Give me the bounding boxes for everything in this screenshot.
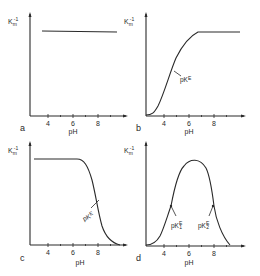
pk2-pointer (209, 206, 213, 216)
figure-canvas: 4 6 8 pH a Km-1 4 6 8 pH b Km-1 pKE (0, 0, 260, 276)
pk1-annotation: pKE1 (171, 220, 183, 230)
x-axis-label: pH (76, 259, 85, 267)
x-axis-arrow-icon (123, 115, 128, 118)
panel-label: b (136, 123, 141, 133)
data-curve (146, 32, 240, 115)
y-axis-label: Km-1 (8, 145, 19, 156)
panel-label: d (136, 253, 141, 263)
panel-d: 4 6 8 pH d Km-1 pKE1 pKE2 (124, 141, 246, 267)
data-curve (146, 160, 230, 245)
x-tick-label: 4 (162, 120, 166, 127)
x-axis-arrow-icon (123, 244, 128, 247)
x-tick-label: 4 (46, 120, 50, 127)
x-tick-label: 8 (96, 120, 100, 127)
y-axis-arrow-icon (29, 141, 32, 146)
pk-annotation: pKE (81, 209, 96, 223)
x-tick-label: 6 (71, 120, 75, 127)
y-axis-label: Km-1 (124, 16, 135, 27)
data-curve (42, 31, 117, 32)
x-tick-label: 6 (187, 120, 191, 127)
y-axis-label: Km-1 (8, 16, 19, 27)
x-tick-label: 8 (212, 250, 216, 257)
x-tick-label: 6 (71, 249, 75, 256)
x-tick-label: 8 (96, 249, 100, 256)
x-axis-arrow-icon (241, 115, 246, 118)
y-axis-arrow-icon (29, 12, 32, 17)
panel-a: 4 6 8 pH a Km-1 (8, 12, 128, 136)
panel-label: a (20, 123, 25, 133)
x-tick-label: 4 (162, 250, 166, 257)
y-axis-arrow-icon (145, 12, 148, 17)
pk2-annotation: pKE2 (198, 220, 210, 230)
x-tick-label: 4 (46, 249, 50, 256)
y-axis-label: Km-1 (124, 145, 135, 156)
x-axis-label: pH (185, 128, 194, 136)
data-curve (34, 159, 120, 245)
x-axis-label: pH (69, 128, 78, 136)
panel-c: 4 6 8 pH c Km-1 pKE (8, 141, 128, 267)
x-tick-label: 8 (212, 120, 216, 127)
pk1-pointer (171, 206, 176, 216)
panel-b: 4 6 8 pH b Km-1 pKE (124, 12, 246, 136)
pk-annotation: pKE (180, 75, 192, 85)
panel-label: c (20, 253, 25, 263)
x-axis-arrow-icon (241, 245, 246, 248)
y-axis-arrow-icon (145, 141, 148, 146)
x-tick-label: 6 (187, 250, 191, 257)
x-axis-label: pH (185, 259, 194, 267)
